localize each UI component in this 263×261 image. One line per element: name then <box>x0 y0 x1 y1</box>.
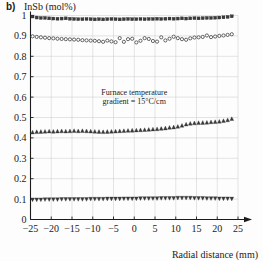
data-point <box>151 17 154 20</box>
data-point <box>222 197 226 201</box>
data-point <box>85 129 89 133</box>
data-point <box>193 196 197 200</box>
data-point <box>122 18 125 21</box>
data-point <box>172 17 175 20</box>
data-point <box>89 18 92 21</box>
data-point <box>81 39 84 42</box>
y-tick-label: 0.1 <box>14 194 27 205</box>
data-point <box>31 198 35 202</box>
gridlines <box>31 16 239 220</box>
y-tick-label: 0.7 <box>14 71 27 82</box>
plot-annotation: Furnace temperaturegradient = 15°C/cm <box>101 88 167 106</box>
data-point <box>64 38 67 41</box>
data-point <box>222 34 225 37</box>
data-point <box>48 37 51 40</box>
data-point <box>31 35 34 38</box>
data-point <box>168 37 171 40</box>
data-point <box>64 129 68 133</box>
data-point <box>151 127 155 131</box>
data-point <box>76 129 80 133</box>
data-point <box>209 120 213 124</box>
data-point <box>114 18 117 21</box>
data-point <box>134 128 138 132</box>
data-point <box>139 128 143 132</box>
data-point <box>214 35 217 38</box>
data-point <box>114 129 118 133</box>
data-point <box>172 35 175 38</box>
data-point <box>143 197 147 201</box>
data-point <box>44 16 47 19</box>
data-point <box>168 196 172 200</box>
data-point <box>164 39 167 42</box>
axis-lines <box>31 12 253 223</box>
data-point <box>139 17 142 20</box>
data-point <box>155 127 159 131</box>
data-point <box>156 17 159 20</box>
data-point <box>226 197 230 201</box>
data-point <box>180 123 184 127</box>
x-tick-label: 20 <box>212 223 222 234</box>
data-point <box>193 121 197 125</box>
y-tick-label: 0.5 <box>14 112 27 123</box>
data-point <box>68 38 71 41</box>
data-point <box>131 37 134 40</box>
data-point <box>85 198 89 202</box>
data-point <box>189 17 192 20</box>
data-point <box>35 16 38 19</box>
data-point <box>39 198 43 202</box>
x-tick-label: 15 <box>192 223 202 234</box>
data-point <box>126 38 129 41</box>
data-point <box>185 17 188 20</box>
data-point <box>197 121 201 125</box>
data-point <box>201 35 204 38</box>
data-point <box>176 196 180 200</box>
data-point <box>105 130 109 134</box>
data-point <box>222 16 225 19</box>
data-point <box>130 128 134 132</box>
data-point <box>126 197 130 201</box>
data-point <box>189 37 192 40</box>
y-tick-label: 1 <box>22 10 27 21</box>
data-point <box>56 37 59 40</box>
data-point <box>155 197 159 201</box>
data-point <box>60 129 64 133</box>
data-point <box>93 18 96 21</box>
data-point <box>176 17 179 20</box>
data-point <box>193 17 196 20</box>
data-point <box>201 17 204 20</box>
data-point <box>73 17 76 20</box>
data-point <box>159 127 163 131</box>
data-point <box>197 196 201 200</box>
data-point <box>205 34 208 37</box>
y-tick-label: 0.4 <box>14 132 27 143</box>
data-point <box>230 15 233 18</box>
data-point <box>80 129 84 133</box>
data-point <box>176 37 179 40</box>
data-point <box>217 197 221 201</box>
data-point <box>205 120 209 124</box>
data-point <box>147 197 151 201</box>
data-point <box>122 129 126 133</box>
data-point <box>209 36 212 39</box>
annotation-line-1: Furnace temperature <box>101 88 167 97</box>
annotation-line-2: gradient = 15°C/cm <box>103 97 167 106</box>
data-point <box>68 129 72 133</box>
data-point <box>35 35 38 38</box>
x-tick-label: −15 <box>64 223 80 234</box>
y-tick-label: 0.9 <box>14 30 27 41</box>
data-point <box>60 37 63 40</box>
data-point <box>168 126 172 130</box>
data-point <box>89 39 92 42</box>
data-point <box>110 129 114 133</box>
data-point <box>147 37 150 40</box>
series-third-up-triangles <box>31 117 234 134</box>
data-point <box>151 197 155 201</box>
data-point <box>143 128 147 132</box>
y-tick-labels: 00.10.20.30.40.50.60.70.80.91 <box>14 10 27 225</box>
data-point <box>85 39 88 42</box>
data-point <box>218 16 221 19</box>
data-point <box>180 17 183 20</box>
data-point <box>118 18 121 21</box>
data-point <box>114 41 117 44</box>
data-point <box>110 17 113 20</box>
